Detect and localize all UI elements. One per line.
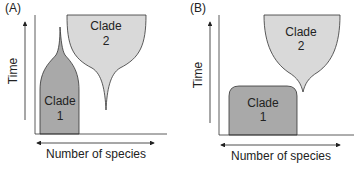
- panel-b-clade1-label: Clade: [247, 96, 279, 110]
- figure: (A) Clade 1 Clade 2 Time Number of speci…: [0, 0, 354, 170]
- panel-a-label: (A): [5, 1, 21, 15]
- panel-a: (A) Clade 1 Clade 2 Time Number of speci…: [5, 1, 167, 161]
- panel-a-clade1-label: Clade: [44, 94, 76, 108]
- panel-a-clade2-label: Clade: [90, 19, 122, 33]
- panel-a-y-label: Time: [6, 58, 20, 85]
- panel-b-label: (B): [190, 1, 206, 15]
- panel-b-y-label: Time: [191, 62, 205, 89]
- panel-b-clade1-number: 1: [260, 110, 267, 124]
- panel-b-x-label: Number of species: [231, 149, 331, 163]
- panel-b-clade2-label: Clade: [285, 25, 317, 39]
- panel-b-clade2-number: 2: [298, 39, 305, 53]
- panel-a-clade1-number: 1: [57, 109, 64, 123]
- panel-a-clade2-number: 2: [103, 34, 110, 48]
- panel-b: (B) Clade 1 Clade 2 Time Number of speci…: [190, 1, 354, 163]
- panel-a-x-label: Number of species: [46, 147, 146, 161]
